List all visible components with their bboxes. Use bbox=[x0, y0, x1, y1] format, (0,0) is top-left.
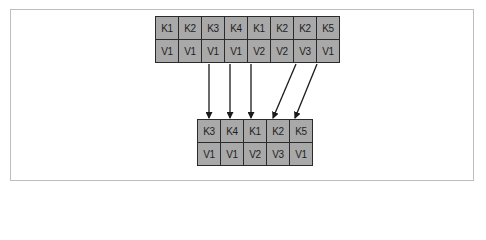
result-values-row: V1 V1 V2 V3 V1 bbox=[198, 143, 313, 166]
result-value-cell: V1 bbox=[198, 143, 221, 166]
result-key-cell: K3 bbox=[198, 120, 221, 143]
result-value-cell: V1 bbox=[221, 143, 244, 166]
arrow-k2 bbox=[273, 64, 296, 118]
result-key-cell: K2 bbox=[267, 120, 290, 143]
result-value-cell: V1 bbox=[290, 143, 313, 166]
result-keys-row: K3 K4 K1 K2 K5 bbox=[198, 120, 313, 143]
result-value-cell: V3 bbox=[267, 143, 290, 166]
result-key-cell: K1 bbox=[244, 120, 267, 143]
result-value-cell: V2 bbox=[244, 143, 267, 166]
result-key-cell: K5 bbox=[290, 120, 313, 143]
arrow-k5 bbox=[295, 64, 317, 118]
result-key-cell: K4 bbox=[221, 120, 244, 143]
result-table: K3 K4 K1 K2 K5 V1 V1 V2 V3 V1 bbox=[197, 119, 313, 166]
